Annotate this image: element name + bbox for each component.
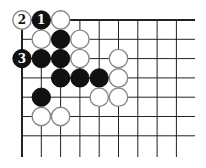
move-number-label: 2 [18,13,26,27]
black-stone [51,49,69,67]
white-stone [51,107,69,125]
move-number-label: 3 [18,52,26,66]
black-stone [51,69,69,87]
white-stone [32,107,50,125]
move-number-label: 1 [37,13,45,27]
white-stone: 2 [13,11,31,29]
white-stone [109,69,127,87]
white-stone [90,88,108,106]
stones-layer: 213 [13,11,128,126]
black-stone [51,30,69,48]
go-board: 213 [0,0,206,168]
white-stone [71,49,89,67]
black-stone [90,69,108,87]
black-stone [71,69,89,87]
white-stone [71,30,89,48]
white-stone [109,49,127,67]
black-stone: 1 [32,11,50,29]
black-stone [32,49,50,67]
white-stone [51,11,69,29]
black-stone: 3 [13,49,31,67]
white-stone [109,88,127,106]
white-stone [32,30,50,48]
black-stone [32,88,50,106]
